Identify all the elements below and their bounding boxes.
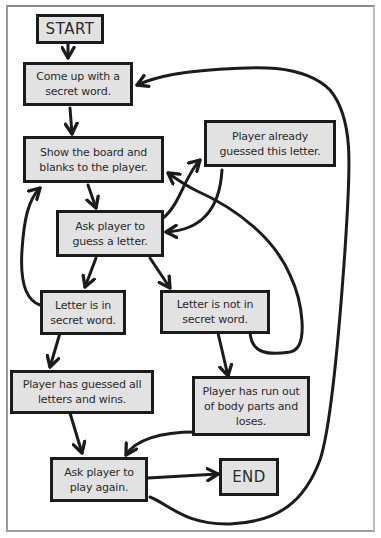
node-show-board-label: Show the board and blanks to the player. [30, 145, 157, 175]
arrow-ask-to-in [85, 258, 96, 287]
arrow-already-to-ask [166, 170, 222, 232]
node-already-guessed: Player already guessed this letter. [204, 120, 336, 167]
node-play-again: Ask player to play again. [50, 457, 148, 502]
node-secret-word: Come up with a secret word. [23, 62, 133, 106]
arrow-notin-to-loses [218, 333, 228, 376]
node-start: START [36, 14, 104, 44]
node-player-loses: Player has run out of body parts and los… [192, 376, 310, 436]
node-secret-word-label: Come up with a secret word. [30, 69, 126, 99]
arrow-in-to-show [22, 188, 40, 305]
arrow-ask-to-notin [150, 258, 170, 288]
arrow-wins-to-playagain [70, 413, 82, 453]
node-show-board: Show the board and blanks to the player. [23, 136, 164, 183]
node-player-loses-label: Player has run out of body parts and los… [199, 384, 303, 429]
arrow-show-to-ask [88, 185, 96, 208]
arrow-in-to-wins [50, 333, 60, 367]
node-letter-not-in: Letter is not in secret word. [160, 290, 270, 334]
node-already-guessed-label: Player already guessed this letter. [211, 129, 329, 159]
node-letter-not-in-label: Letter is not in secret word. [167, 297, 263, 327]
node-start-label: START [46, 22, 95, 37]
node-letter-in-label: Letter is in secret word. [47, 298, 119, 328]
node-play-again-label: Ask player to play again. [57, 465, 141, 495]
arrow-loses-to-playagain [126, 432, 195, 455]
arrow-playagain-to-end [148, 474, 218, 478]
arrow-secret-to-show [70, 108, 72, 134]
node-letter-in: Letter is in secret word. [40, 290, 126, 335]
node-player-wins: Player has guessed all letters and wins. [10, 370, 154, 414]
node-ask-letter-label: Ask player to guess a letter. [63, 219, 157, 249]
node-end-label: END [232, 470, 266, 485]
node-player-wins-label: Player has guessed all letters and wins. [17, 377, 147, 407]
node-ask-letter: Ask player to guess a letter. [56, 210, 164, 257]
node-end: END [219, 458, 279, 496]
